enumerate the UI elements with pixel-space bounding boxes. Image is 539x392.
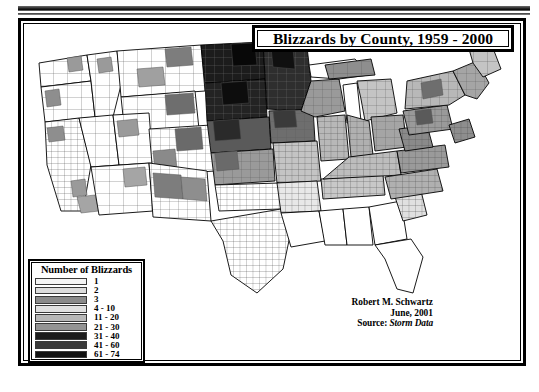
county-ia-dark-1 [273,110,297,128]
legend-swatch [35,296,87,304]
legend-swatch [35,287,87,295]
county-wa-shaded-1 [67,56,83,72]
county-az-shaded-1 [123,167,147,187]
legend-swatch [35,341,87,349]
county-ca-shaded-1 [47,126,65,142]
legend-swatch [35,332,87,340]
credit-source-label: Source: [357,318,387,328]
legend-entry-list: 1234 - 1011 - 2021 - 3031 - 4041 - 6061 … [35,277,138,359]
legend-entry: 4 - 10 [35,304,138,313]
county-co-shaded-1 [175,127,203,151]
map-frame: Number of Blizzards 1234 - 1011 - 2021 -… [18,18,526,366]
credit-date: June, 2001 [283,308,433,319]
county-ks-dark-1 [215,151,239,171]
county-wy-shaded-1 [165,93,195,115]
legend-swatch [35,314,87,322]
county-mt-shaded-1 [165,47,193,67]
county-pa-dark-1 [415,109,433,125]
legend-entry: 61 - 74 [35,350,138,359]
credit-source: Source: Storm Data [283,318,433,329]
legend-swatch [35,278,87,286]
region-arkansas-counties [277,181,321,213]
map-figure: Number of Blizzards 1234 - 1011 - 2021 -… [0,0,539,392]
map-title-box: Blizzards by County, 1959 - 2000 [252,25,514,52]
legend-entry: 31 - 40 [35,332,138,341]
county-nm-shaded-2 [181,177,207,201]
region-new-jersey-maryland-counties [449,119,475,143]
legend-entry: 2 [35,286,138,295]
county-nm-shaded-1 [153,173,183,199]
county-mt-shaded-2 [137,67,165,87]
map-landmass [39,42,501,293]
county-or-shaded-1 [45,89,61,107]
legend-entry: 41 - 60 [35,341,138,350]
legend-heading: Number of Blizzards [35,264,138,276]
legend-label: 61 - 74 [94,350,120,359]
legend-swatch [35,305,87,313]
title-inner-border: Blizzards by County, 1959 - 2000 [257,30,509,47]
county-sd-peak-1 [221,81,249,105]
region-illinois-counties [317,115,349,161]
region-florida [375,239,423,293]
legend-entry: 21 - 30 [35,322,138,331]
credit-block: Robert M. Schwartz June, 2001 Source: St… [283,297,433,329]
county-id-shaded-1 [97,57,113,73]
legend-swatch [35,323,87,331]
map-legend: Number of Blizzards 1234 - 1011 - 2021 -… [28,259,145,363]
legend-entry: 1 [35,277,138,286]
top-rule-thin [18,13,530,15]
page-title: Blizzards by County, 1959 - 2000 [273,30,493,48]
credit-source-value: Storm Data [389,318,433,328]
legend-entry: 11 - 20 [35,313,138,322]
region-oklahoma-counties [215,183,281,211]
legend-swatch [35,351,87,359]
credit-author: Robert M. Schwartz [283,297,433,308]
legend-inner-border: Number of Blizzards 1234 - 1011 - 2021 -… [31,262,142,360]
region-missouri-counties [273,141,321,183]
top-rule-thick [18,6,530,11]
region-texas-counties [211,209,291,293]
legend-entry: 3 [35,295,138,304]
region-alabama [343,207,373,245]
county-ut-shaded-1 [117,119,139,137]
county-ne-dark-1 [213,119,241,141]
county-ca-shaded-2 [71,179,87,197]
